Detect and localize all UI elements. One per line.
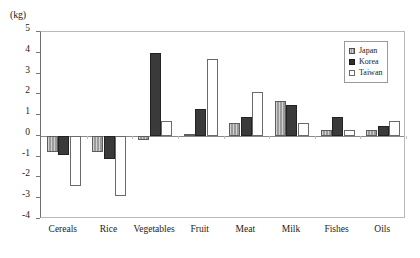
bar-cereals-taiwan [70, 136, 81, 186]
y-axis-tick-label: 4 [25, 45, 30, 55]
bar-fruit-japan [184, 134, 195, 136]
y-axis-tick-label: -2 [22, 169, 30, 179]
y-axis-tick-label: 2 [25, 86, 30, 96]
x-axis-labels: CerealsRiceVegetablesFruitMeatMilkFishes… [40, 224, 405, 244]
bar-rice-japan [92, 136, 103, 153]
bar-vegetables-japan [138, 136, 149, 140]
bar-oils-taiwan [389, 121, 400, 136]
y-axis-tick-label: 5 [25, 24, 30, 34]
x-axis-label-milk: Milk [282, 224, 300, 234]
bar-cereals-japan [47, 136, 58, 153]
bar-rice-taiwan [115, 136, 126, 196]
bar-milk-taiwan [298, 123, 309, 135]
bar-fruit-korea [195, 109, 206, 136]
x-axis-label-oils: Oils [374, 224, 390, 234]
legend-swatch-japan-icon [349, 48, 355, 54]
x-axis-label-fishes: Fishes [324, 224, 348, 234]
bar-cereals-korea [58, 136, 69, 155]
y-axis-tick-label: 1 [25, 107, 30, 117]
bar-fishes-japan [321, 130, 332, 136]
legend-item-korea: Korea [349, 57, 382, 67]
legend-label-korea: Korea [359, 58, 379, 66]
y-axis-tick-label: -1 [22, 149, 30, 159]
legend-item-taiwan: Taiwan [349, 68, 382, 78]
y-axis-tick-mark [36, 218, 40, 219]
x-axis-minor-tick [315, 136, 316, 139]
legend-item-japan: Japan [349, 46, 382, 56]
legend: Japan Korea Taiwan [344, 41, 388, 83]
bar-milk-korea [286, 105, 297, 136]
bar-meat-korea [241, 117, 252, 136]
legend-swatch-korea-icon [349, 59, 355, 65]
bar-fruit-taiwan [207, 59, 218, 136]
x-axis-minor-tick [269, 136, 270, 139]
legend-label-taiwan: Taiwan [359, 69, 382, 77]
x-axis-minor-tick [224, 136, 225, 139]
bar-meat-taiwan [252, 92, 263, 136]
bar-oils-japan [366, 130, 377, 136]
bar-chart: (kg) 543210-1-2-3-4 CerealsRiceVegetable… [0, 0, 420, 258]
y-axis: 543210-1-2-3-4 [0, 31, 40, 218]
y-axis-unit-label: (kg) [10, 9, 26, 20]
legend-label-japan: Japan [359, 47, 377, 55]
bar-fishes-korea [332, 117, 343, 136]
y-axis-tick-label: 0 [25, 128, 30, 138]
bar-oils-korea [378, 126, 389, 136]
y-axis-tick-label: 3 [25, 66, 30, 76]
x-axis-label-meat: Meat [236, 224, 256, 234]
x-axis-minor-tick [360, 136, 361, 139]
x-axis-label-fruit: Fruit [190, 224, 208, 234]
bar-rice-korea [104, 136, 115, 159]
y-axis-tick-label: -4 [22, 211, 30, 221]
x-axis-minor-tick [178, 136, 179, 139]
bar-meat-japan [229, 123, 240, 135]
legend-swatch-taiwan-icon [349, 70, 355, 76]
bar-vegetables-korea [150, 53, 161, 136]
x-axis-label-cereals: Cereals [49, 224, 78, 234]
y-axis-tick-label: -3 [22, 190, 30, 200]
x-axis-label-vegetables: Vegetables [133, 224, 174, 234]
bar-fishes-taiwan [344, 130, 355, 136]
bar-vegetables-taiwan [161, 121, 172, 136]
x-axis-label-rice: Rice [100, 224, 117, 234]
x-axis-minor-tick [132, 136, 133, 139]
x-axis-minor-tick [87, 136, 88, 139]
bar-milk-japan [275, 101, 286, 136]
x-axis-minor-tick [406, 136, 407, 139]
